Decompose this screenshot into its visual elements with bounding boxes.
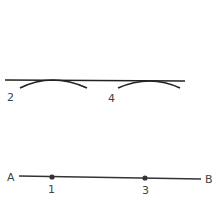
point-label-1: 1 [48, 183, 55, 196]
segment-ab [19, 176, 201, 179]
point-1-dot [49, 174, 54, 179]
arc-2 [20, 80, 87, 88]
arc-4 [118, 81, 180, 88]
point-label-b: B [205, 173, 213, 186]
arc-label-2: 2 [7, 91, 14, 104]
arc-label-4: 4 [108, 92, 115, 105]
point-label-a: A [7, 171, 15, 184]
geometry-diagram: 2 4 A B 1 3 [0, 0, 220, 200]
point-3-dot [142, 175, 147, 180]
point-label-3: 3 [142, 184, 149, 197]
